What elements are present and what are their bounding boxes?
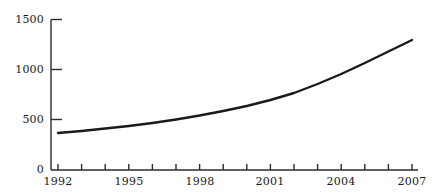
y-tick-label-1000: 1000 (8, 64, 44, 75)
chart-plot-area (0, 0, 440, 195)
x-tick-label-2004: 2004 (316, 176, 366, 187)
chart-container: Line chart showing steady exponential gr… (0, 0, 440, 195)
data-series-line (58, 40, 412, 133)
y-tick-label-1500: 1500 (8, 14, 44, 25)
x-axis-ticks (58, 164, 412, 170)
x-tick-label-2001: 2001 (245, 176, 295, 187)
y-tick-label-0: 0 (8, 164, 44, 175)
y-axis-ticks (51, 20, 62, 120)
y-tick-label-500: 500 (8, 114, 44, 125)
x-tick-label-1992: 1992 (33, 176, 83, 187)
x-tick-label-2007: 2007 (387, 176, 437, 187)
x-tick-label-1998: 1998 (175, 176, 225, 187)
x-tick-label-1995: 1995 (104, 176, 154, 187)
